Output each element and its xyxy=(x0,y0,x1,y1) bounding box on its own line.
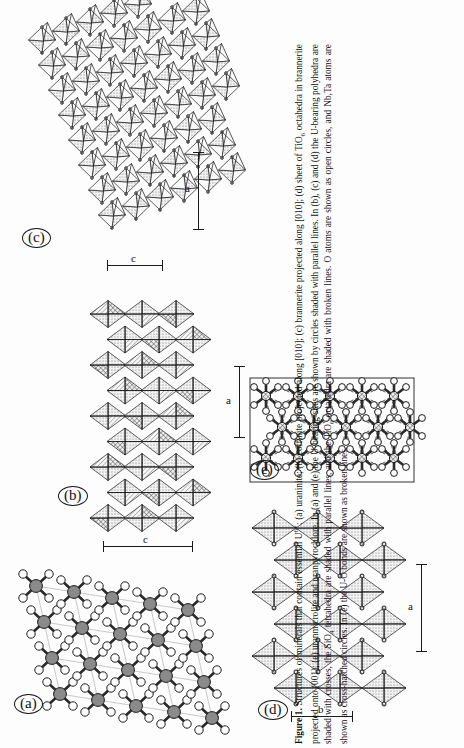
coffinite-polyhedron xyxy=(107,340,125,354)
coffinite-polyhedron xyxy=(142,518,160,532)
oxygen-vertex xyxy=(171,32,174,35)
coffinite-polyhedron xyxy=(141,391,159,405)
tio6-face xyxy=(252,512,274,528)
coffinite-polyhedron xyxy=(158,352,176,366)
uranium-site xyxy=(76,622,89,635)
coffinite-polyhedron xyxy=(124,505,142,519)
oxygen-vertex xyxy=(115,168,118,171)
uranium-site xyxy=(30,580,43,593)
oxygen-atom xyxy=(179,654,187,662)
oxygen-vertex xyxy=(173,149,176,152)
octahedron-face xyxy=(160,197,174,210)
coffinite-polyhedron xyxy=(176,454,194,468)
uranium-site xyxy=(130,700,143,713)
scalebar-c-axis-c: c xyxy=(104,255,166,277)
oxygen-atom xyxy=(45,594,53,602)
coffinite-polyhedron xyxy=(90,416,108,430)
oxygen-atom xyxy=(221,702,229,710)
coffinite-polyhedron xyxy=(108,314,126,328)
oxygen-vertex xyxy=(51,77,54,80)
coffinite-polyhedron xyxy=(125,493,143,507)
octahedron-face xyxy=(59,115,74,128)
coffinite-polyhedron xyxy=(124,518,142,532)
coffinite-polyhedron xyxy=(142,403,160,417)
oxygen-vertex xyxy=(159,209,162,212)
oxygen-vertex xyxy=(101,176,104,179)
coffinite-polyhedron xyxy=(108,352,126,366)
coffinite-polyhedron xyxy=(193,479,211,493)
oxygen-atom xyxy=(205,654,213,662)
oxygen-atom xyxy=(19,594,27,602)
coffinite-polyhedron xyxy=(124,352,142,366)
oxygen-atom xyxy=(263,440,270,447)
oxygen-atom xyxy=(137,678,145,686)
oxygen-atom xyxy=(187,666,195,674)
coffinite-polyhedron xyxy=(175,442,193,456)
oxygen-vertex xyxy=(187,115,190,118)
oxygen-atom xyxy=(171,594,179,602)
oxygen-vertex xyxy=(119,83,122,86)
coffinite-polyhedron xyxy=(142,365,160,379)
oxygen-atom xyxy=(167,648,175,656)
scalebar-label-c: c xyxy=(131,252,136,264)
scalebar-label-c: c xyxy=(143,533,148,545)
oxygen-vertex xyxy=(221,157,224,160)
oxygen-vertex xyxy=(105,117,108,120)
octahedron-face xyxy=(159,7,174,21)
coffinite-polyhedron xyxy=(124,301,142,315)
oxygen-vertex xyxy=(211,132,214,135)
coffinite-polyhedron xyxy=(175,428,193,442)
oxygen-vertex xyxy=(101,202,104,205)
oxygen-atom xyxy=(83,600,91,608)
coffinite-polyhedron xyxy=(124,416,142,430)
oxygen-vertex xyxy=(139,159,142,162)
scalebar-e-axis-a: a xyxy=(226,362,252,442)
scalebar-b-axis-c: c xyxy=(100,536,198,558)
coffinite-polyhedron xyxy=(158,416,176,430)
coffinite-polyhedron xyxy=(159,428,177,442)
oxygen-vertex xyxy=(109,84,112,87)
oxygen-atom xyxy=(157,720,165,728)
oxygen-vertex xyxy=(119,109,122,112)
coffinite-polyhedron xyxy=(176,352,194,366)
coffinite-polyhedron xyxy=(142,352,160,366)
oxygen-atom xyxy=(119,690,127,698)
oxygen-atom xyxy=(183,720,191,728)
octahedron-face xyxy=(39,65,54,78)
coffinite-polyhedron xyxy=(142,505,160,519)
coffinite-polyhedron xyxy=(176,505,194,519)
oxygen-atom xyxy=(279,409,286,416)
oxygen-atom xyxy=(35,666,43,674)
panel-label-e: (e) xyxy=(250,460,279,480)
tio6-face xyxy=(252,592,274,608)
oxygen-vertex xyxy=(113,25,116,28)
oxygen-vertex xyxy=(123,24,126,27)
oxygen-atom xyxy=(81,684,89,692)
coffinite-polyhedron xyxy=(90,314,108,328)
coffinite-polyhedron xyxy=(175,391,193,405)
coffinite-polyhedron xyxy=(108,518,126,532)
uranium-site xyxy=(182,604,195,617)
coffinite-polyhedron xyxy=(125,340,143,354)
oxygen-atom xyxy=(73,672,81,680)
oxygen-vertex xyxy=(133,49,136,52)
coffinite-polyhedron xyxy=(159,340,177,354)
oxygen-atom xyxy=(45,570,53,578)
coffinite-polyhedron xyxy=(124,454,142,468)
oxygen-atom xyxy=(195,702,203,710)
uranium-site xyxy=(54,688,67,701)
oxygen-vertex xyxy=(221,131,224,134)
oxygen-vertex xyxy=(85,93,88,96)
oxygen-vertex xyxy=(149,158,152,161)
octahedron-face xyxy=(232,170,246,183)
oxygen-atom xyxy=(57,576,65,584)
oxygen-vertex xyxy=(125,193,128,196)
coffinite-polyhedron xyxy=(90,365,108,379)
coffinite-polyhedron xyxy=(175,377,193,391)
oxygen-vertex xyxy=(173,175,176,178)
coffinite-polyhedron xyxy=(176,467,194,481)
oxygen-atom xyxy=(159,588,167,596)
oxygen-vertex xyxy=(231,182,234,185)
oxygen-vertex xyxy=(125,167,128,170)
oxygen-vertex xyxy=(135,192,138,195)
